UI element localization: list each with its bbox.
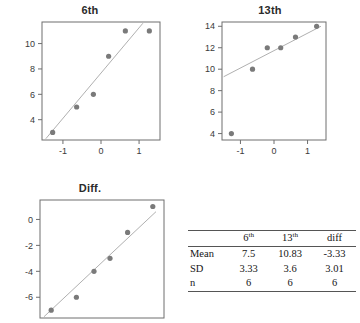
- stats-table-container: 6th 13th diff Mean 7.5 10.83 -3.33 SD 3.…: [188, 230, 356, 292]
- row-label-sd: SD: [188, 262, 230, 277]
- y-tick-label: 10: [205, 64, 215, 74]
- data-point: [150, 204, 155, 209]
- y-tick-label: 10: [25, 39, 35, 49]
- header-thirteenth: 13th: [267, 231, 313, 247]
- data-point: [123, 28, 128, 33]
- data-point: [91, 269, 96, 274]
- data-point: [74, 104, 79, 109]
- data-point: [293, 34, 298, 39]
- fit-line: [224, 26, 321, 76]
- y-tick-label: 4: [30, 115, 35, 125]
- panel-diff-title: Diff.: [0, 182, 180, 194]
- cell-n-diff: 6: [313, 276, 356, 291]
- fit-line: [46, 23, 143, 138]
- header-corner: [188, 231, 230, 247]
- data-point: [50, 130, 55, 135]
- x-tick-label: -1: [236, 146, 244, 156]
- panel-sixth-plot: 46810-101: [0, 0, 180, 175]
- panel-diff: Diff. -6-4-20: [0, 178, 180, 323]
- data-point: [107, 256, 112, 261]
- stats-table-body: Mean 7.5 10.83 -3.33 SD 3.33 3.6 3.01 n …: [188, 246, 356, 291]
- row-label-n: n: [188, 276, 230, 291]
- header-sixth: 6th: [230, 231, 267, 247]
- y-tick-label: 8: [30, 64, 35, 74]
- y-tick-label: 8: [210, 86, 215, 96]
- stats-table: 6th 13th diff Mean 7.5 10.83 -3.33 SD 3.…: [188, 230, 356, 292]
- cell-mean-diff: -3.33: [313, 246, 356, 261]
- cell-n-thirteenth: 6: [267, 276, 313, 291]
- data-point: [229, 131, 234, 136]
- x-tick-label: 1: [305, 146, 310, 156]
- header-sixth-sup: th: [248, 231, 254, 239]
- y-tick-label: 6: [30, 90, 35, 100]
- y-tick-label: 4: [210, 129, 215, 139]
- stats-table-head: 6th 13th diff: [188, 231, 356, 247]
- cell-mean-thirteenth: 10.83: [267, 246, 313, 261]
- data-point: [49, 308, 54, 313]
- data-point: [147, 28, 152, 33]
- header-thirteenth-sup: th: [293, 231, 299, 239]
- data-point: [91, 92, 96, 97]
- panel-thirteenth-plot: 468101214-101: [180, 0, 360, 175]
- figure-root: { "figure": { "background": "#ffffff", "…: [0, 0, 360, 323]
- table-row: SD 3.33 3.6 3.01: [188, 262, 356, 277]
- data-point: [265, 45, 270, 50]
- fit-line: [44, 212, 156, 317]
- row-label-mean: Mean: [188, 246, 230, 261]
- y-tick-label: 6: [210, 107, 215, 117]
- plot-frame: [40, 200, 164, 318]
- y-tick-label: 0: [28, 215, 33, 225]
- x-tick-label: 0: [98, 146, 103, 156]
- y-tick-label: 12: [205, 43, 215, 53]
- cell-sd-diff: 3.01: [313, 262, 356, 277]
- table-header-row: 6th 13th diff: [188, 231, 356, 247]
- data-point: [74, 295, 79, 300]
- cell-mean-sixth: 7.5: [230, 246, 267, 261]
- data-point: [106, 54, 111, 59]
- cell-sd-sixth: 3.33: [230, 262, 267, 277]
- data-point: [250, 67, 255, 72]
- data-point: [278, 45, 283, 50]
- header-thirteenth-base: 13: [282, 232, 293, 243]
- y-tick-label: -6: [25, 292, 33, 302]
- panel-sixth: 6th 46810-101: [0, 0, 180, 175]
- panel-thirteenth: 13th 468101214-101: [180, 0, 360, 175]
- panel-thirteenth-title: 13th: [180, 4, 360, 16]
- panel-diff-plot: -6-4-20: [0, 178, 180, 323]
- x-tick-label: 0: [271, 146, 276, 156]
- header-diff: diff: [313, 231, 356, 247]
- cell-sd-thirteenth: 3.6: [267, 262, 313, 277]
- table-row: n 6 6 6: [188, 276, 356, 291]
- y-tick-label: -4: [25, 267, 33, 277]
- y-tick-label: 14: [205, 21, 215, 31]
- x-tick-label: -1: [59, 146, 67, 156]
- table-row: Mean 7.5 10.83 -3.33: [188, 246, 356, 261]
- x-tick-label: 1: [137, 146, 142, 156]
- panel-sixth-title: 6th: [0, 4, 180, 16]
- data-point: [314, 24, 319, 29]
- y-tick-label: -2: [25, 241, 33, 251]
- plot-frame: [222, 22, 326, 140]
- data-point: [125, 230, 130, 235]
- cell-n-sixth: 6: [230, 276, 267, 291]
